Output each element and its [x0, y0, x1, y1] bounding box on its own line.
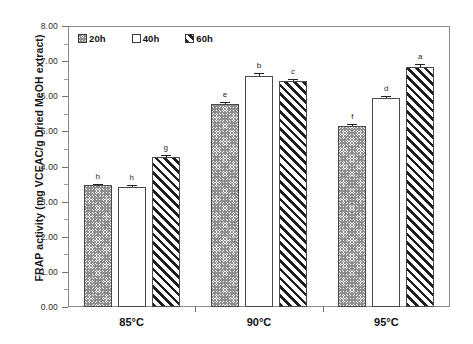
- y-axis-tick-label: 2.00: [18, 232, 58, 242]
- y-axis-tick-label: 8.00: [18, 21, 58, 31]
- y-axis-minor-tick: [64, 184, 68, 185]
- y-axis-minor-tick: [64, 289, 68, 290]
- y-axis-tick: [62, 307, 68, 308]
- significance-letter: d: [371, 84, 401, 93]
- y-axis-minor-tick: [64, 44, 68, 45]
- significance-letter: b: [244, 61, 274, 70]
- bar-40h-90°C: [245, 76, 273, 307]
- legend-item-20h[interactable]: 20h: [78, 33, 106, 44]
- legend-label: 40h: [143, 33, 160, 44]
- y-axis-tick: [62, 61, 68, 62]
- legend-item-60h[interactable]: 60h: [185, 33, 213, 44]
- significance-letter: c: [278, 67, 308, 76]
- error-bar-stem: [293, 79, 294, 81]
- y-axis-minor-tick: [64, 79, 68, 80]
- significance-letter: h: [117, 173, 147, 182]
- error-bar-stem: [166, 155, 167, 157]
- bar-60h-85°C: [152, 157, 180, 307]
- significance-letter: a: [405, 52, 435, 61]
- bar-40h-95°C: [372, 98, 400, 307]
- bar-20h-95°C: [338, 126, 366, 307]
- x-axis-category-label: 85°C: [72, 316, 192, 328]
- bar-60h-95°C: [406, 67, 434, 307]
- significance-letter: e: [210, 90, 240, 99]
- x-axis-category-label: 95°C: [326, 316, 446, 328]
- error-bar-stem: [132, 185, 133, 187]
- legend-swatch-icon: [78, 34, 87, 43]
- x-axis-tick: [195, 307, 196, 312]
- error-bar-stem: [386, 96, 387, 98]
- legend-swatch-icon: [132, 34, 141, 43]
- bar-20h-85°C: [84, 185, 112, 307]
- y-axis-tick-label: 3.00: [18, 197, 58, 207]
- y-axis-minor-tick: [64, 149, 68, 150]
- y-axis-tick: [62, 96, 68, 97]
- error-bar-stem: [225, 102, 226, 104]
- x-axis-tick: [323, 307, 324, 312]
- y-axis-tick: [62, 167, 68, 168]
- y-axis-tick-label: 7.00: [18, 56, 58, 66]
- error-bar-stem: [420, 64, 421, 66]
- error-bar-stem: [98, 184, 99, 186]
- significance-letter: g: [151, 143, 181, 152]
- y-axis-tick-label: 5.00: [18, 126, 58, 136]
- y-axis-tick-label: 6.00: [18, 91, 58, 101]
- legend-item-40h[interactable]: 40h: [132, 33, 160, 44]
- y-axis-tick-label: 0.00: [18, 302, 58, 312]
- y-axis-tick-label: 1.00: [18, 267, 58, 277]
- legend-swatch-icon: [185, 34, 194, 43]
- bar-60h-90°C: [279, 81, 307, 307]
- significance-letter: f: [337, 112, 367, 121]
- chart-legend: 20h40h60h: [78, 33, 213, 44]
- y-axis-tick: [62, 131, 68, 132]
- y-axis-tick: [62, 26, 68, 27]
- legend-label: 20h: [89, 33, 106, 44]
- frap-activity-bar-chart: FRAP activity (mg VCEAC/g Dried MeOH ext…: [0, 0, 473, 344]
- y-axis-tick-label: 4.00: [18, 162, 58, 172]
- y-axis-minor-tick: [64, 254, 68, 255]
- y-axis-minor-tick: [64, 219, 68, 220]
- bar-20h-90°C: [211, 104, 239, 307]
- legend-label: 60h: [196, 33, 213, 44]
- y-axis-title: FRAP activity (mg VCEAC/g Dried MeOH ext…: [33, 33, 45, 283]
- error-bar-stem: [259, 73, 260, 76]
- error-bar-stem: [352, 124, 353, 126]
- y-axis-minor-tick: [64, 114, 68, 115]
- y-axis-tick: [62, 202, 68, 203]
- y-axis-tick: [62, 272, 68, 273]
- x-axis-category-label: 90°C: [199, 316, 319, 328]
- significance-letter: h: [83, 172, 113, 181]
- y-axis-tick: [62, 237, 68, 238]
- bar-40h-85°C: [118, 187, 146, 307]
